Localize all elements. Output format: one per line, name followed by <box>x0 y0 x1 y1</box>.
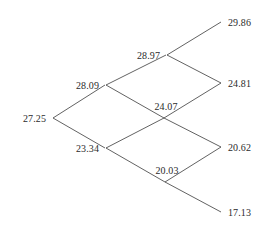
lattice-edge-up <box>106 118 164 148</box>
lattice-node-value: 29.86 <box>228 17 251 28</box>
lattice-node-value: 24.81 <box>228 78 251 89</box>
lattice-node-value: 27.25 <box>23 113 46 124</box>
lattice-node-value: 17.13 <box>228 207 251 218</box>
lattice-node-value: 20.62 <box>228 142 251 153</box>
lattice-edge-down <box>164 118 221 147</box>
lattice-node-value: 23.34 <box>76 143 99 154</box>
lattice-node-value: 28.09 <box>76 80 99 91</box>
lattice-edge-down <box>165 182 221 212</box>
lattice-edge-down <box>167 55 221 83</box>
lattice-node-value: 28.97 <box>137 50 160 61</box>
binomial-lattice-diagram: 27.2528.0923.3428.9724.0720.0329.8624.81… <box>0 0 266 233</box>
lattice-node-value: 20.03 <box>156 165 179 176</box>
lattice-node-value: 24.07 <box>155 101 178 112</box>
lattice-edge-up <box>167 22 221 55</box>
